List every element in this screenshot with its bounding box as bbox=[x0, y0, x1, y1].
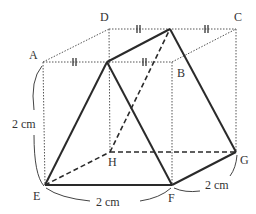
depth-arc-left bbox=[174, 188, 200, 192]
edge-AD bbox=[43, 29, 109, 62]
solid-edges bbox=[45, 29, 236, 185]
vertex-C: C bbox=[234, 11, 242, 23]
vertex-G: G bbox=[240, 154, 249, 166]
depth-arc-right bbox=[230, 155, 237, 176]
edge-BC bbox=[172, 29, 236, 62]
vertex-H: H bbox=[108, 156, 117, 168]
depth-label: 2 cm bbox=[205, 179, 229, 191]
vertex-D: D bbox=[100, 11, 109, 23]
edge-DH bbox=[109, 29, 110, 152]
width-label: 2 cm bbox=[96, 196, 120, 208]
height-arc-top bbox=[33, 66, 42, 110]
width-arc-right bbox=[140, 188, 171, 201]
edge-AE bbox=[43, 62, 45, 185]
edge-H-top bbox=[110, 29, 170, 152]
height-label: 2 cm bbox=[12, 118, 36, 130]
width-arc-left bbox=[46, 188, 90, 201]
height-arc-bottom bbox=[34, 135, 44, 186]
vertex-B: B bbox=[177, 67, 185, 79]
vertex-F: F bbox=[168, 192, 175, 204]
edge-EH bbox=[45, 152, 110, 185]
vertex-E: E bbox=[33, 190, 40, 202]
vertex-A: A bbox=[29, 49, 38, 61]
edge-front-top bbox=[107, 29, 170, 62]
edge-E-front bbox=[45, 62, 107, 185]
hidden-edges bbox=[45, 29, 236, 185]
cube-edges bbox=[43, 29, 236, 185]
edge-G-top bbox=[170, 29, 236, 152]
